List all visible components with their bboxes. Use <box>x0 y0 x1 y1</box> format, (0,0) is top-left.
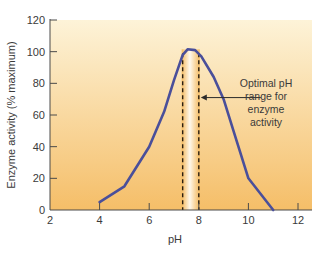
x-axis-label: pH <box>168 233 182 245</box>
y-tick-label: 80 <box>33 77 45 89</box>
annotation-text-line: activity <box>250 116 283 128</box>
x-tick-label: 10 <box>242 214 254 226</box>
plot-area <box>50 20 312 210</box>
y-tick-label: 20 <box>33 172 45 184</box>
x-tick-label: 8 <box>196 214 202 226</box>
x-tick-label: 6 <box>146 214 152 226</box>
y-tick-label: 0 <box>39 204 45 216</box>
annotation-text-line: enzyme <box>248 103 285 115</box>
annotation-text-line: range for <box>245 90 288 102</box>
x-tick-label: 12 <box>292 214 304 226</box>
optimal-band-fill <box>182 49 200 210</box>
enzyme-activity-chart: 020406080100120 24681012 Optimal pHrange… <box>0 0 319 254</box>
y-tick-label: 40 <box>33 141 45 153</box>
optimal-range-band <box>182 49 200 210</box>
plot-background <box>50 20 312 210</box>
y-axis-label: Enzyme activity (% maximum) <box>5 41 17 188</box>
y-tick-label: 60 <box>33 109 45 121</box>
y-tick-label: 120 <box>27 14 45 26</box>
annotation-text-line: Optimal pH <box>240 77 293 89</box>
x-tick-label: 2 <box>47 214 53 226</box>
x-tick-label: 4 <box>97 214 103 226</box>
y-tick-label: 100 <box>27 46 45 58</box>
